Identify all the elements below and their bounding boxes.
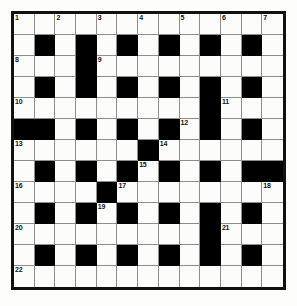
crossword-cell[interactable] xyxy=(221,266,242,287)
crossword-cell[interactable] xyxy=(138,245,159,266)
crossword-cell[interactable] xyxy=(55,77,76,98)
crossword-cell[interactable] xyxy=(117,266,138,287)
crossword-cell[interactable] xyxy=(221,35,242,56)
crossword-cell[interactable] xyxy=(76,140,97,161)
crossword-cell[interactable] xyxy=(262,203,283,224)
crossword-cell[interactable] xyxy=(138,98,159,119)
crossword-cell[interactable] xyxy=(221,119,242,140)
crossword-cell[interactable] xyxy=(14,245,35,266)
crossword-cell[interactable] xyxy=(242,56,263,77)
crossword-cell[interactable] xyxy=(138,56,159,77)
crossword-cell[interactable]: 17 xyxy=(117,182,138,203)
crossword-cell[interactable]: 16 xyxy=(14,182,35,203)
crossword-cell[interactable] xyxy=(138,77,159,98)
crossword-cell[interactable] xyxy=(200,266,221,287)
crossword-cell[interactable] xyxy=(97,266,118,287)
crossword-cell[interactable] xyxy=(138,35,159,56)
crossword-cell[interactable] xyxy=(55,56,76,77)
crossword-cell[interactable] xyxy=(97,140,118,161)
crossword-cell[interactable] xyxy=(35,14,56,35)
crossword-cell[interactable] xyxy=(55,161,76,182)
crossword-cell[interactable] xyxy=(262,56,283,77)
crossword-cell[interactable] xyxy=(14,77,35,98)
crossword-cell[interactable] xyxy=(221,161,242,182)
crossword-cell[interactable] xyxy=(97,245,118,266)
crossword-cell[interactable] xyxy=(180,56,201,77)
crossword-cell[interactable] xyxy=(35,266,56,287)
crossword-cell[interactable] xyxy=(221,245,242,266)
crossword-cell[interactable] xyxy=(97,35,118,56)
crossword-cell[interactable] xyxy=(76,98,97,119)
crossword-cell[interactable]: 22 xyxy=(14,266,35,287)
crossword-cell[interactable] xyxy=(262,224,283,245)
crossword-cell[interactable] xyxy=(180,35,201,56)
crossword-cell[interactable] xyxy=(117,14,138,35)
crossword-cell[interactable] xyxy=(97,77,118,98)
crossword-cell[interactable]: 7 xyxy=(262,14,283,35)
crossword-cell[interactable] xyxy=(242,182,263,203)
crossword-cell[interactable] xyxy=(14,161,35,182)
crossword-cell[interactable] xyxy=(35,140,56,161)
crossword-cell[interactable] xyxy=(180,77,201,98)
crossword-cell[interactable] xyxy=(180,140,201,161)
crossword-cell[interactable]: 5 xyxy=(180,14,201,35)
crossword-cell[interactable] xyxy=(221,56,242,77)
crossword-cell[interactable] xyxy=(200,14,221,35)
crossword-cell[interactable] xyxy=(35,182,56,203)
crossword-cell[interactable] xyxy=(242,14,263,35)
crossword-cell[interactable] xyxy=(55,203,76,224)
crossword-cell[interactable] xyxy=(200,140,221,161)
crossword-cell[interactable] xyxy=(262,266,283,287)
crossword-cell[interactable] xyxy=(200,56,221,77)
crossword-cell[interactable] xyxy=(55,119,76,140)
crossword-cell[interactable] xyxy=(76,224,97,245)
crossword-cell[interactable] xyxy=(97,224,118,245)
crossword-cell[interactable] xyxy=(180,245,201,266)
crossword-cell[interactable] xyxy=(242,266,263,287)
crossword-cell[interactable] xyxy=(117,140,138,161)
crossword-cell[interactable] xyxy=(221,182,242,203)
crossword-cell[interactable] xyxy=(262,119,283,140)
crossword-cell[interactable] xyxy=(180,266,201,287)
crossword-cell[interactable]: 4 xyxy=(138,14,159,35)
crossword-cell[interactable]: 14 xyxy=(159,140,180,161)
crossword-cell[interactable] xyxy=(242,140,263,161)
crossword-cell[interactable] xyxy=(180,161,201,182)
crossword-cell[interactable] xyxy=(200,182,221,203)
crossword-cell[interactable] xyxy=(55,182,76,203)
crossword-cell[interactable] xyxy=(97,161,118,182)
crossword-cell[interactable] xyxy=(55,266,76,287)
crossword-cell[interactable]: 1 xyxy=(14,14,35,35)
crossword-cell[interactable] xyxy=(180,182,201,203)
crossword-cell[interactable] xyxy=(35,224,56,245)
crossword-cell[interactable]: 10 xyxy=(14,98,35,119)
crossword-cell[interactable] xyxy=(35,98,56,119)
crossword-cell[interactable]: 12 xyxy=(180,119,201,140)
crossword-cell[interactable] xyxy=(180,203,201,224)
crossword-cell[interactable] xyxy=(159,182,180,203)
crossword-cell[interactable] xyxy=(117,56,138,77)
crossword-cell[interactable]: 2 xyxy=(55,14,76,35)
crossword-cell[interactable] xyxy=(221,77,242,98)
crossword-cell[interactable] xyxy=(138,119,159,140)
crossword-cell[interactable] xyxy=(159,14,180,35)
crossword-cell[interactable]: 21 xyxy=(221,224,242,245)
crossword-cell[interactable] xyxy=(159,224,180,245)
crossword-cell[interactable] xyxy=(159,266,180,287)
crossword-cell[interactable] xyxy=(117,224,138,245)
crossword-cell[interactable] xyxy=(221,140,242,161)
crossword-cell[interactable] xyxy=(221,203,242,224)
crossword-cell[interactable] xyxy=(14,35,35,56)
crossword-cell[interactable]: 8 xyxy=(14,56,35,77)
crossword-cell[interactable] xyxy=(262,35,283,56)
crossword-cell[interactable] xyxy=(138,203,159,224)
crossword-cell[interactable] xyxy=(97,119,118,140)
crossword-cell[interactable]: 20 xyxy=(14,224,35,245)
crossword-cell[interactable] xyxy=(76,266,97,287)
crossword-cell[interactable] xyxy=(159,56,180,77)
crossword-grid[interactable]: 12345678910111213141516171819202122 xyxy=(14,14,283,287)
crossword-cell[interactable] xyxy=(262,245,283,266)
crossword-cell[interactable] xyxy=(138,224,159,245)
crossword-cell[interactable] xyxy=(262,140,283,161)
crossword-cell[interactable] xyxy=(35,56,56,77)
